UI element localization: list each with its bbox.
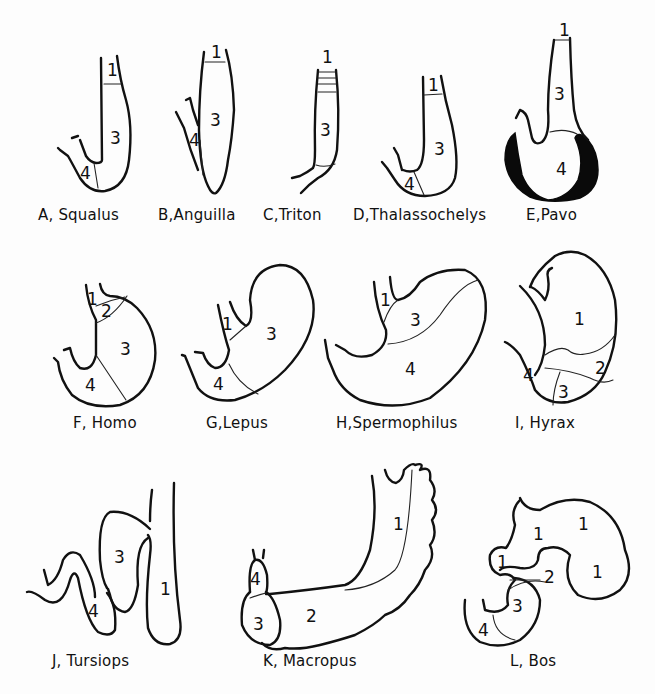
svg-text:4: 4 [405,359,416,379]
caption-squalus: A, Squalus [38,206,119,224]
svg-text:1: 1 [497,552,508,572]
svg-text:4: 4 [85,375,96,395]
svg-text:4: 4 [250,569,261,589]
svg-text:3: 3 [120,339,131,359]
svg-text:1: 1 [87,289,98,309]
svg-text:4: 4 [213,374,224,394]
svg-text:3: 3 [114,547,125,567]
stomach-drawing-squalus: 1 3 4 [58,56,130,191]
svg-text:2: 2 [544,567,555,587]
svg-text:3: 3 [320,120,331,140]
svg-text:1: 1 [559,20,570,40]
svg-text:1: 1 [160,579,171,599]
svg-text:3: 3 [253,614,264,634]
stomach-drawing-macropus: 4 3 2 1 [242,464,436,649]
caption-lepus: G,Lepus [206,414,268,432]
caption-spermophilus: H,Spermophilus [336,414,458,432]
svg-text:3: 3 [410,310,421,330]
stomach-drawing-spermophilus: 1 3 4 [325,270,486,406]
stomach-drawing-tursiops: 3 4 1 [27,483,181,644]
stomach-drawing-triton: 1 3 [292,47,338,193]
svg-text:1: 1 [578,514,589,534]
svg-text:4: 4 [523,365,534,385]
stomach-drawing-pavo: 1 3 4 [505,20,598,201]
stomach-drawing-homo: 1 2 3 4 [54,284,155,406]
svg-text:4: 4 [88,601,99,621]
svg-text:1: 1 [393,514,404,534]
svg-text:3: 3 [266,324,277,344]
svg-text:3: 3 [210,110,221,130]
svg-text:2: 2 [306,606,317,626]
svg-text:1: 1 [533,524,544,544]
caption-triton: C,Triton [263,206,322,224]
caption-hyrax: I, Hyrax [515,414,575,432]
svg-text:3: 3 [434,139,445,159]
stomach-drawing-lepus: 1 3 4 [182,265,314,401]
svg-text:1: 1 [380,290,391,310]
caption-bos: L, Bos [510,652,556,670]
caption-pavo: E,Pavo [526,206,577,224]
svg-text:4: 4 [189,130,200,150]
caption-thalassochelys: D,Thalassochelys [353,206,486,224]
svg-text:1: 1 [222,314,233,334]
svg-text:3: 3 [558,382,569,402]
svg-text:4: 4 [80,163,91,183]
svg-text:1: 1 [211,42,222,62]
caption-homo: F, Homo [73,414,137,432]
svg-text:3: 3 [110,128,121,148]
svg-text:1: 1 [322,47,333,67]
svg-text:1: 1 [592,562,603,582]
svg-text:4: 4 [404,174,415,194]
svg-text:2: 2 [595,358,606,378]
svg-text:3: 3 [554,84,565,104]
stomach-drawing-bos: 1 1 1 1 2 3 4 [465,498,629,646]
svg-text:3: 3 [512,596,523,616]
svg-text:1: 1 [107,60,118,80]
svg-text:1: 1 [574,309,585,329]
caption-tursiops: J, Tursiops [52,652,129,670]
svg-text:4: 4 [556,159,567,179]
svg-text:1: 1 [428,75,439,95]
stomach-comparison-figure: 1 3 4 1 3 4 1 3 1 3 4 [0,0,655,694]
stomach-drawing-hyrax: 1 2 3 4 [505,252,616,405]
svg-text:2: 2 [101,301,112,321]
stomach-drawing-anguilla: 1 3 4 [176,42,234,193]
svg-text:4: 4 [478,620,489,640]
stomach-drawing-thalassochelys: 1 3 4 [382,75,456,196]
caption-macropus: K, Macropus [263,652,357,670]
caption-anguilla: B,Anguilla [158,206,236,224]
